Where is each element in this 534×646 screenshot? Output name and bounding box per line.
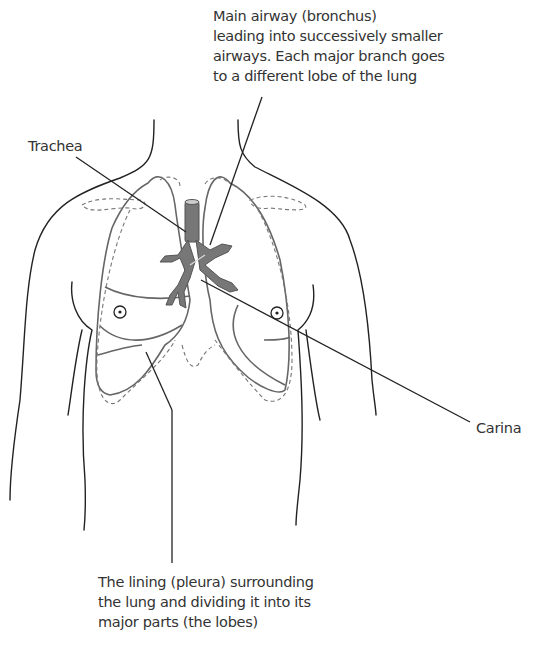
apex-left — [160, 177, 180, 186]
airway-tree — [160, 200, 238, 309]
leader-pleura — [146, 352, 172, 410]
nipples — [114, 306, 283, 319]
neck-shoulder-right — [238, 120, 376, 415]
left-clavicle — [82, 199, 145, 210]
leader-lines — [76, 97, 470, 563]
torso-right-inner — [306, 330, 320, 420]
trachea — [185, 202, 199, 242]
heart-outline — [182, 345, 215, 366]
chest-diagram — [0, 0, 534, 646]
right-heart-notch — [264, 337, 290, 340]
right-clavicle — [250, 196, 306, 210]
leader-main-airway — [210, 97, 262, 245]
torso-left-inner — [68, 330, 82, 415]
left-lobe-divider-2 — [100, 325, 182, 340]
right-pleura — [215, 210, 292, 401]
body-outline — [10, 120, 376, 530]
leader-trachea — [76, 157, 186, 232]
bronchi-right — [196, 240, 238, 292]
neck-shoulder-left — [10, 120, 154, 500]
left-lobe-divider-3 — [98, 345, 142, 355]
torso-right — [296, 285, 314, 525]
torso-left — [72, 282, 92, 530]
left-lung — [96, 177, 190, 395]
